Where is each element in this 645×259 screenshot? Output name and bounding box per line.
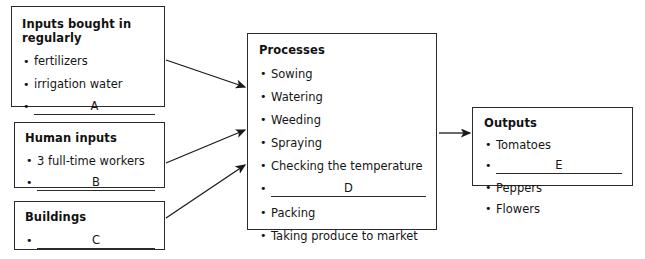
blank-letter-a: A (34, 100, 155, 113)
list-item: fertilizers (22, 55, 155, 68)
box-title-processes: Processes (259, 44, 426, 58)
bullet-list-buildings: C (25, 235, 155, 249)
box-title-buildings: Buildings (25, 211, 155, 225)
box-outputs: Outputs Tomatoes E Peppers Flowers (472, 107, 633, 186)
blank-rule: C (37, 235, 155, 249)
list-item: Spraying (259, 137, 426, 150)
blank-letter-c: C (37, 234, 155, 247)
bullet-list-human-inputs: 3 full-time workers B (25, 155, 155, 191)
box-title-inputs: Inputs bought in regularly (22, 18, 155, 45)
list-item: Tomatoes (484, 139, 622, 152)
list-item: Taking produce to market (259, 230, 426, 243)
bullet-list-outputs: Tomatoes E Peppers Flowers (484, 139, 622, 216)
blank-rule: D (271, 183, 426, 197)
blank-answer-line-d[interactable]: D (259, 183, 426, 197)
list-item: Checking the temperature (259, 160, 426, 173)
blank-letter-e: E (496, 159, 622, 172)
blank-answer-line-b[interactable]: B (25, 177, 155, 191)
box-title-human-inputs: Human inputs (25, 132, 155, 146)
list-item: 3 full-time workers (25, 155, 155, 168)
diagram-canvas: Inputs bought in regularly fertilizers i… (0, 0, 645, 259)
blank-answer-line-e[interactable]: E (484, 160, 622, 174)
box-human-inputs: Human inputs 3 full-time workers B (14, 122, 165, 188)
arrow-buildings-to-processes (166, 165, 245, 218)
list-item: irrigation water (22, 78, 155, 91)
list-item: Peppers (484, 182, 622, 195)
box-buildings: Buildings C (14, 201, 165, 250)
arrow-inputs-to-processes (166, 60, 245, 87)
blank-rule: B (37, 177, 155, 191)
blank-rule: A (34, 101, 155, 115)
list-item: Weeding (259, 114, 426, 127)
bullet-list-processes: Sowing Watering Weeding Spraying Checkin… (259, 68, 426, 243)
blank-rule: E (496, 160, 622, 174)
blank-letter-d: D (271, 182, 426, 195)
box-title-outputs: Outputs (484, 117, 622, 131)
box-inputs-bought-in-regularly: Inputs bought in regularly fertilizers i… (11, 6, 165, 107)
list-item: Watering (259, 91, 426, 104)
box-processes: Processes Sowing Watering Weeding Sprayi… (247, 33, 437, 230)
list-item: Packing (259, 207, 426, 220)
list-item: Sowing (259, 68, 426, 81)
arrow-human-to-processes (166, 130, 245, 163)
bullet-list-inputs: fertilizers irrigation water A (22, 55, 155, 115)
blank-answer-line-a[interactable]: A (22, 101, 155, 115)
blank-answer-line-c[interactable]: C (25, 235, 155, 249)
blank-letter-b: B (37, 176, 155, 189)
list-item: Flowers (484, 203, 622, 216)
